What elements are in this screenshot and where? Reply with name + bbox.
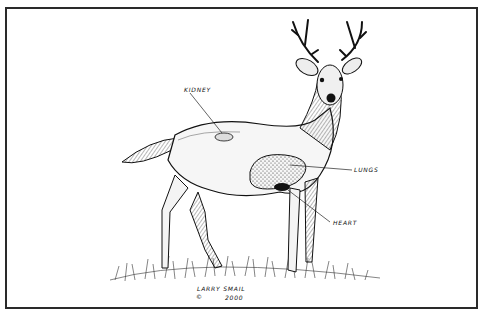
copyright-symbol: © bbox=[196, 293, 203, 300]
kidney-organ bbox=[215, 133, 233, 141]
label-lungs: LUNGS bbox=[354, 166, 379, 173]
label-kidney: KIDNEY bbox=[184, 86, 211, 93]
antlers bbox=[292, 20, 366, 62]
artist-signature: LARRY SMAIL bbox=[197, 285, 245, 292]
grass bbox=[110, 255, 380, 281]
left-eye bbox=[320, 78, 324, 82]
heart-organ bbox=[274, 183, 290, 191]
left-ear bbox=[293, 55, 321, 79]
label-heart: HEART bbox=[333, 219, 357, 226]
right-eye bbox=[339, 77, 343, 81]
signature-year: 2000 bbox=[225, 294, 243, 301]
deer-illustration bbox=[0, 0, 479, 312]
nose bbox=[327, 94, 336, 103]
